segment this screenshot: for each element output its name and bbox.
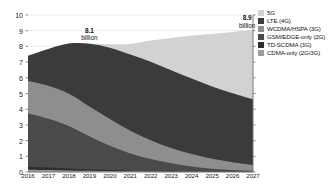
legend-swatch-icon — [258, 34, 264, 40]
annotation-value: 8.9 — [239, 14, 255, 21]
x-tick-label-2023: 2023 — [164, 172, 177, 179]
area-series-group — [28, 30, 253, 172]
chart-legend: 5GLTE (4G)WCDMA/HSPA (3G)GSM/EDGE-only (… — [258, 9, 328, 56]
legend-label: LTE (4G) — [267, 17, 291, 24]
y-tick-label-5: 5 — [19, 90, 23, 97]
y-tick-label-2: 2 — [19, 137, 23, 144]
stacked-area-chart: 109876543210 201620172018201920202021202… — [0, 0, 328, 193]
legend-swatch-icon — [258, 18, 264, 24]
legend-swatch-icon — [258, 42, 264, 48]
y-tick-label-4: 4 — [19, 106, 23, 113]
y-tick-label-10: 10 — [15, 12, 23, 19]
x-tick-label-2016: 2016 — [21, 172, 34, 179]
y-tick-label-6: 6 — [19, 74, 23, 81]
x-tick-label-2025: 2025 — [205, 172, 218, 179]
legend-item-cdma-only-2g-3g[interactable]: CDMA-only (2G/3G) — [258, 49, 328, 56]
legend-label: TD-SCDMA (3G) — [267, 41, 311, 48]
legend-swatch-icon — [258, 10, 264, 16]
legend-label: GSM/EDGE-only (2G) — [267, 33, 325, 40]
legend-item-wcdma-hspa-3g[interactable]: WCDMA/HSPA (3G) — [258, 25, 328, 32]
y-tick-label-8: 8 — [19, 43, 23, 50]
legend-label: 5G — [267, 9, 275, 16]
legend-item-lte-4g[interactable]: LTE (4G) — [258, 17, 328, 24]
x-tick-label-2027: 2027 — [246, 172, 259, 179]
annotation-unit: billion — [239, 22, 255, 29]
annotation-end-2027: 8.9billion — [239, 14, 255, 29]
legend-label: CDMA-only (2G/3G) — [267, 49, 320, 56]
x-tick-label-2019: 2019 — [83, 172, 96, 179]
legend-swatch-icon — [258, 50, 264, 56]
y-tick-label-1: 1 — [19, 153, 23, 160]
y-tick-label-9: 9 — [19, 27, 23, 34]
legend-item-5g[interactable]: 5G — [258, 9, 328, 16]
x-tick-label-2026: 2026 — [226, 172, 239, 179]
x-tick-label-2022: 2022 — [144, 172, 157, 179]
annotation-value: 8.1 — [81, 27, 97, 34]
x-tick-label-2024: 2024 — [185, 172, 198, 179]
y-axis-labels: 109876543210 — [0, 0, 26, 193]
y-tick-label-3: 3 — [19, 121, 23, 128]
x-tick-label-2020: 2020 — [103, 172, 116, 179]
y-tick-label-7: 7 — [19, 59, 23, 66]
legend-label: WCDMA/HSPA (3G) — [267, 25, 321, 32]
x-tick-label-2018: 2018 — [62, 172, 75, 179]
x-tick-label-2017: 2017 — [42, 172, 55, 179]
legend-swatch-icon — [258, 26, 264, 32]
x-tick-label-2021: 2021 — [124, 172, 137, 179]
annotation-unit: billion — [81, 34, 97, 41]
annotation-peak-2019: 8.1billion — [81, 27, 97, 42]
legend-item-gsm-edge-only-2g[interactable]: GSM/EDGE-only (2G) — [258, 33, 328, 40]
legend-item-td-scdma-3g[interactable]: TD-SCDMA (3G) — [258, 41, 328, 48]
x-axis-labels: 2016201720182019202020212022202320242025… — [0, 172, 328, 186]
